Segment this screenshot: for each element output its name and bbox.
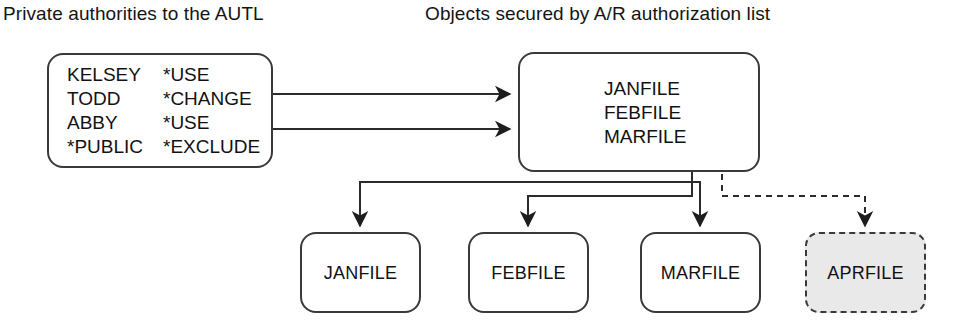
secured-objects-box[interactable]: JANFILE FEBFILE MARFILE xyxy=(518,52,760,172)
autl-entry-row: *PUBLIC *EXCLUDE xyxy=(67,136,263,158)
autl-entry-row: TODD *CHANGE xyxy=(67,88,263,110)
autl-box[interactable]: KELSEY *USE TODD *CHANGE ABBY *USE *PUBL… xyxy=(47,53,273,168)
object-node-label: JANFILE xyxy=(302,262,419,283)
autl-entry-list: KELSEY *USE TODD *CHANGE ABBY *USE *PUBL… xyxy=(67,55,263,166)
object-node-label: MARFILE xyxy=(642,262,759,283)
autl-entry-user: KELSEY xyxy=(67,64,163,86)
object-node-febfile[interactable]: FEBFILE xyxy=(468,232,589,313)
left-section-title: Private authorities to the AUTL xyxy=(3,4,264,23)
secured-objects-list: JANFILE FEBFILE MARFILE xyxy=(604,54,750,170)
autl-entry-row: ABBY *USE xyxy=(67,112,263,134)
secured-object-item: JANFILE xyxy=(604,77,750,100)
autl-entry-authority: *USE xyxy=(163,112,209,134)
object-node-aprfile[interactable]: APRFILE xyxy=(805,232,926,313)
secured-object-item: FEBFILE xyxy=(604,101,750,124)
connector-objects-to-marfile xyxy=(692,182,700,226)
autl-entry-user: *PUBLIC xyxy=(67,136,163,158)
autl-entry-authority: *USE xyxy=(163,64,209,86)
autl-entry-authority: *CHANGE xyxy=(163,88,252,110)
diagram-canvas: Private authorities to the AUTL Objects … xyxy=(0,0,953,335)
connector-objects-to-febfile xyxy=(528,182,692,226)
secured-object-item: MARFILE xyxy=(604,125,750,148)
autl-entry-authority: *EXCLUDE xyxy=(163,136,260,158)
autl-entry-user: ABBY xyxy=(67,112,163,134)
object-node-label: APRFILE xyxy=(807,262,924,283)
object-node-janfile[interactable]: JANFILE xyxy=(300,232,421,313)
object-node-label: FEBFILE xyxy=(470,262,587,283)
autl-entry-user: TODD xyxy=(67,88,163,110)
autl-entry-row: KELSEY *USE xyxy=(67,64,263,86)
connector-objects-to-aprfile xyxy=(722,174,865,226)
object-node-marfile[interactable]: MARFILE xyxy=(640,232,761,313)
right-section-title: Objects secured by A/R authorization lis… xyxy=(425,4,770,23)
connector-objects-to-janfile xyxy=(360,182,692,226)
